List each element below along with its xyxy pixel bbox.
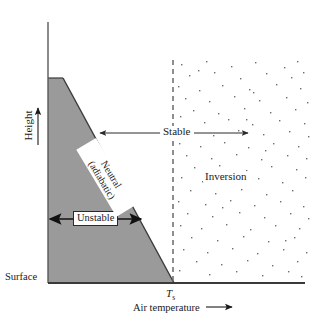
unstable-region-label: Unstable	[73, 211, 118, 226]
ts-subscript: s	[172, 293, 175, 302]
stability-diagram: Height Surface Stable Unstable Inversion…	[0, 0, 314, 320]
diagram-canvas	[0, 0, 314, 320]
stable-region-label: Stable	[160, 126, 194, 137]
ts-tick-label: Ts	[166, 288, 175, 302]
inversion-region-label: Inversion	[203, 171, 249, 182]
y-axis-label: Height	[23, 111, 34, 141]
surface-label: Surface	[5, 272, 37, 283]
x-axis-label: Air temperature	[133, 303, 200, 314]
